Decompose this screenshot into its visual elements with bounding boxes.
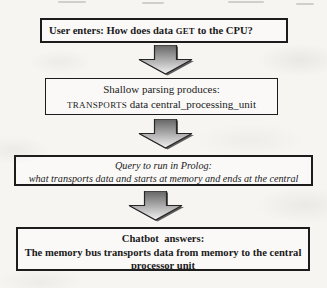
shallow-parsing-line1: Shallow parsing produces: (46, 82, 277, 97)
chatbot-answer-line1: Chatbot answers: (18, 232, 308, 246)
scan-noise (58, 1, 86, 3)
prolog-query-box: Query to run in Prolog: what transports … (14, 155, 313, 186)
down-arrow-icon (138, 45, 194, 76)
prolog-query-line2: what transports data and starts at memor… (16, 173, 311, 186)
flowchart-figure: User enters: How does data GET to the CP… (0, 0, 327, 288)
chatbot-answer-line2: The memory bus transports data from memo… (18, 246, 308, 260)
shallow-parsing-line2: TRANSPORTS data central_processing_unit (46, 97, 277, 113)
prolog-query-clipped-line: processing_unit? (16, 185, 311, 186)
prolog-query-line1: Query to run in Prolog: (16, 160, 311, 173)
user-input-box: User enters: How does data GET to the CP… (40, 18, 288, 43)
user-input-text-smallcaps: GET (176, 26, 195, 36)
down-arrow-icon (128, 191, 184, 222)
shallow-parsing-relation: TRANSPORTS (67, 100, 127, 110)
user-input-text-suffix: to the CPU? (195, 25, 253, 36)
chatbot-answer-box: Chatbot answers: The memory bus transpor… (16, 227, 310, 271)
scan-noise (296, 3, 314, 5)
shallow-parsing-box: Shallow parsing produces: TRANSPORTS dat… (45, 78, 278, 115)
scan-noise (228, 1, 264, 3)
scan-noise (142, 2, 164, 4)
user-input-text-prefix: User enters: How does data (49, 25, 176, 36)
chatbot-answer-line3: processor unit (18, 259, 308, 271)
shallow-parsing-args: data central_processing_unit (127, 98, 256, 110)
down-arrow-icon (138, 119, 194, 150)
